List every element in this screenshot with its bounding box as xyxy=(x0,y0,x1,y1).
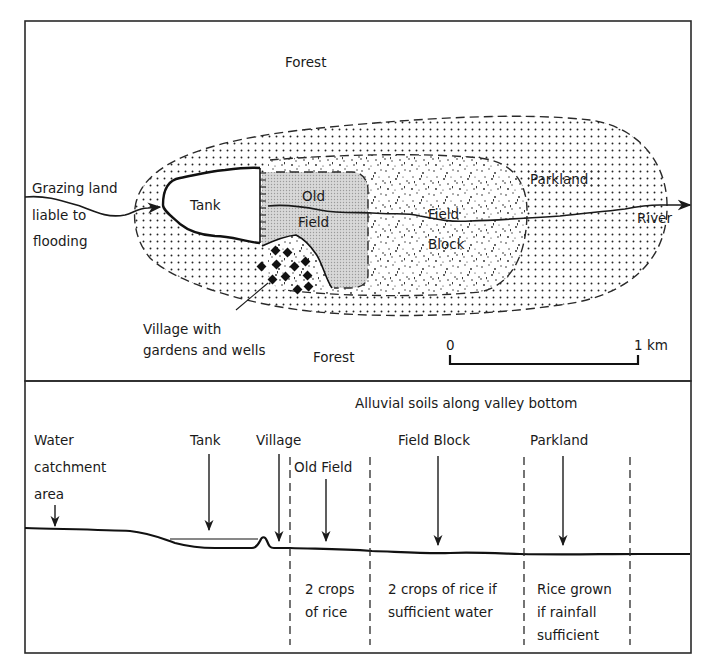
profile-title: Alluvial soils along valley bottom xyxy=(355,395,577,411)
zone-field-block-description: 2 crops of rice if sufficient water xyxy=(388,581,498,620)
plan-map-panel: Forest Forest Grazing land liable to flo… xyxy=(25,21,691,381)
label-old-field-line2: Field xyxy=(298,214,329,230)
profile-label-field-block: Field Block xyxy=(398,432,470,448)
label-grazing-line1: Grazing land xyxy=(32,180,118,196)
scale-start-label: 0 xyxy=(446,337,455,353)
profile-label-village: Village xyxy=(256,432,301,448)
svg-text:sufficient water: sufficient water xyxy=(388,604,493,620)
tank-village-land-use-diagram: Forest Forest Grazing land liable to flo… xyxy=(0,0,714,670)
profile-panel: Alluvial soils along valley bottom Water… xyxy=(25,381,691,653)
profile-label-old-field: Old Field xyxy=(294,459,352,475)
profile-label-tank: Tank xyxy=(189,432,221,448)
label-village-line1: Village with xyxy=(143,321,221,337)
scale-end-label: 1 km xyxy=(634,337,668,353)
label-tank: Tank xyxy=(189,197,221,213)
label-field-block-line2: Block xyxy=(428,236,465,252)
svg-text:of rice: of rice xyxy=(305,604,347,620)
zone-parkland-description: Rice grown if rainfall sufficient xyxy=(537,581,612,643)
label-village-line2: gardens and wells xyxy=(143,342,265,358)
svg-text:2 crops of rice if: 2 crops of rice if xyxy=(388,581,498,597)
label-forest-bottom: Forest xyxy=(313,349,354,365)
label-grazing-line2: liable to xyxy=(32,207,86,223)
profile-label-water-line3: area xyxy=(34,486,64,502)
profile-label-water-line2: catchment xyxy=(34,459,106,475)
profile-label-parkland: Parkland xyxy=(530,432,588,448)
label-old-field-line1: Old xyxy=(302,188,325,204)
svg-text:sufficient: sufficient xyxy=(537,627,599,643)
zone-old-field-description: 2 crops of rice xyxy=(305,581,354,620)
profile-label-water-line1: Water xyxy=(34,432,74,448)
ground-profile xyxy=(25,528,690,554)
scale-bar: 0 1 km xyxy=(446,337,668,364)
label-grazing-line3: flooding xyxy=(33,233,87,249)
svg-text:Rice grown: Rice grown xyxy=(537,581,612,597)
label-field-block-line1: Field xyxy=(428,206,459,222)
svg-text:2 crops: 2 crops xyxy=(305,581,354,597)
label-parkland: Parkland xyxy=(530,171,588,187)
label-forest-top: Forest xyxy=(285,54,326,70)
label-river: River xyxy=(637,210,672,226)
svg-text:if rainfall: if rainfall xyxy=(537,604,596,620)
